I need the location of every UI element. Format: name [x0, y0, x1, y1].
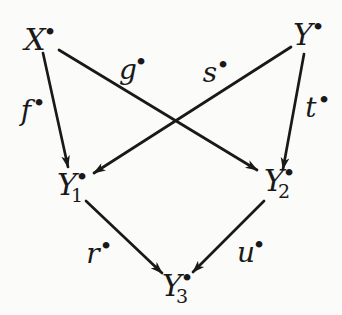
edge-label-g: g •: [119, 56, 137, 84]
node-X: X •: [24, 25, 45, 55]
edge-label-t: t •: [305, 94, 316, 122]
edge-t-arrow: [283, 54, 304, 169]
node-Y1-subscript: 1: [71, 186, 83, 205]
node-Y2-subscript: 2: [278, 182, 290, 201]
node-Y1: Y • 1: [57, 170, 77, 200]
node-Y3: Y • 3: [162, 271, 182, 301]
node-Y3-subscript: 3: [176, 287, 188, 306]
edge-label-f: f •: [21, 97, 31, 125]
edge-f-arrow: [43, 53, 68, 167]
commutative-diagram: X • Y • Y • 1 Y • 2 Y • 3 f • g • s • t …: [0, 0, 342, 315]
node-Y: Y •: [293, 20, 313, 50]
edge-label-s: s •: [203, 59, 217, 87]
node-Y2: Y • 2: [264, 166, 284, 196]
edge-label-u: u •: [237, 239, 255, 267]
node-Y-label: Y: [293, 20, 313, 50]
edge-label-r: r •: [86, 240, 99, 268]
